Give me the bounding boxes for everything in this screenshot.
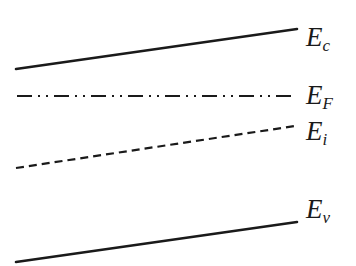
conduction-band-label: Ec: [305, 22, 331, 55]
valence-band-label: Ev: [305, 194, 331, 227]
band-diagram: Ec EF Ei Ev: [0, 0, 356, 266]
intrinsic-level-label: Ei: [305, 116, 328, 149]
intrinsic-level-line: [16, 126, 295, 168]
fermi-level-label: EF: [305, 80, 334, 113]
valence-band-line: [16, 222, 297, 262]
conduction-band-line: [16, 29, 297, 69]
